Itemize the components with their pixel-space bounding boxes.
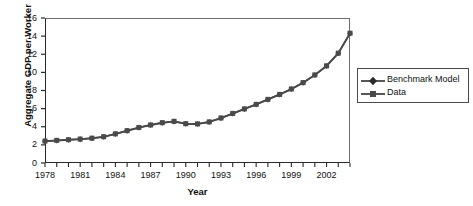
y-axis-title: Aggregate GDP per Worker [22, 0, 33, 141]
data-series-layer [42, 31, 353, 145]
square-marker-icon [361, 86, 385, 98]
x-tick-label: 1990 [166, 171, 206, 180]
x-axis-title: Year [45, 186, 350, 197]
x-tick-label: 1987 [131, 171, 171, 180]
series-benchmark-model [42, 31, 353, 145]
legend-label: Benchmark Model [385, 74, 460, 84]
x-tick-label: 1996 [236, 171, 276, 180]
legend-item-benchmark-model: Benchmark Model [361, 72, 464, 85]
y-axis-title-wrap: Aggregate GDP per Worker [0, 0, 1, 1]
legend-label: Data [385, 87, 406, 97]
y-tick-label: 0 [11, 159, 37, 168]
legend-item-data: Data [361, 85, 464, 98]
x-axis-ticks [45, 163, 350, 167]
diamond-marker-icon [361, 73, 385, 85]
chart-legend: Benchmark Model Data [357, 68, 469, 103]
x-tick-label: 2002 [307, 171, 347, 180]
x-tick-label: 1978 [25, 171, 65, 180]
y-tick-label: 2 [11, 140, 37, 149]
x-tick-label: 1993 [201, 171, 241, 180]
x-tick-label: 1984 [95, 171, 135, 180]
x-tick-label: 1981 [60, 171, 100, 180]
chart-figure: 0246810121416 19781981198419871990199319… [0, 0, 473, 206]
x-tick-label: 1999 [271, 171, 311, 180]
